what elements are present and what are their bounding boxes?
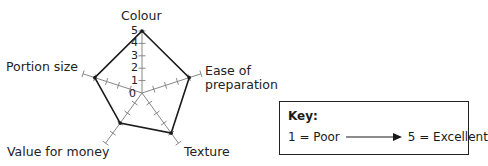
arrow-right-icon [344,132,404,142]
axis-tick [154,111,160,115]
key-title: Key: [288,109,318,123]
tick-label: 1 [131,75,138,86]
axis-label-portion-size: Portion size [6,60,78,74]
axis-tick [146,101,152,105]
key-low-label: 1 = Poor [288,130,340,144]
axis-label-ease-of-preparation-line1: Ease of [205,64,251,78]
axis-label-value-for-money: Value for money [7,145,109,159]
axis-tick [110,131,116,135]
key-box: Key: 1 = Poor 5 = Excellent [279,101,469,155]
tick-label: 3 [131,50,138,61]
axis-tick [161,121,167,125]
axis-tick [176,141,182,145]
tick-label: 2 [131,62,138,73]
tick-label: 0 [129,88,136,99]
axis-label-ease-of-preparation-line2: preparation [205,78,278,92]
data-point [93,76,97,80]
axis-line [142,74,201,93]
tick-label: 4 [131,37,138,48]
key-scale-row: 1 = Poor 5 = Excellent [288,130,488,144]
axis-line [106,93,142,143]
key-high-label: 5 = Excellent [408,130,488,144]
axis-label-texture: Texture [184,145,230,159]
tick-label: 5 [131,25,138,36]
axis-line [142,93,178,143]
data-point [118,121,122,125]
data-point [187,76,191,80]
data-point [169,131,173,135]
axis-tick [125,111,131,115]
axis-label-colour: Colour [121,9,162,23]
data-point [140,29,144,33]
axis-tick [132,101,138,105]
